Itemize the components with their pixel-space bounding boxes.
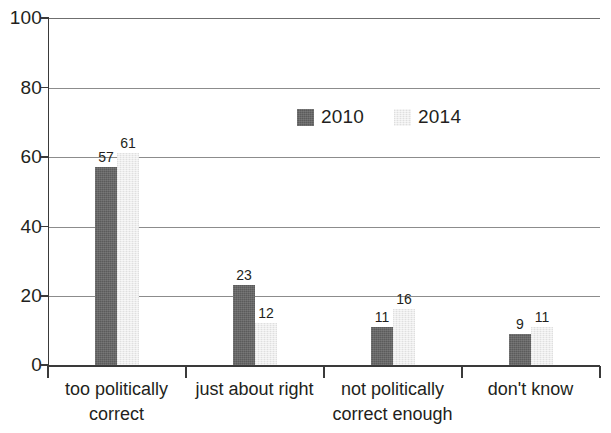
bar-group-too-politically-correct: 57 61 [48, 18, 185, 365]
bar-2010[interactable] [371, 327, 393, 365]
legend-item-2010[interactable]: 2010 [297, 106, 364, 128]
bar-value-2010: 23 [224, 267, 264, 283]
label-line-1: too politically [48, 377, 185, 402]
bar-value-2014: 11 [522, 309, 562, 325]
y-axis-label-40: 40 [20, 216, 42, 238]
bar-2014[interactable] [393, 309, 415, 365]
x-axis-category-labels: too politically correct just about right… [48, 377, 600, 433]
light-gray-swatch-icon [394, 109, 411, 126]
label-line-1: not politically [324, 377, 461, 402]
label-line-2: correct enough [324, 402, 461, 427]
x-axis-label-just-about-right: just about right [186, 377, 323, 402]
x-axis-label-too-politically-correct: too politically correct [48, 377, 185, 427]
bar-value-2014: 61 [108, 135, 148, 151]
y-axis-label-80: 80 [20, 77, 42, 99]
bar-2010[interactable] [509, 334, 531, 365]
bar-chart: 100 80 60 40 20 0 57 61 [0, 0, 611, 433]
legend: 2010 2014 [297, 106, 461, 128]
bar-group-just-about-right: 23 12 [186, 18, 323, 365]
label-line-1: don't know [462, 377, 599, 402]
bar-2010[interactable] [95, 167, 117, 365]
bar-2014[interactable] [531, 327, 553, 365]
y-axis-label-60: 60 [20, 146, 42, 168]
label-line-2: correct [48, 402, 185, 427]
bar-2014[interactable] [117, 153, 139, 365]
bar-2010[interactable] [233, 285, 255, 365]
dark-gray-swatch-icon [297, 109, 314, 126]
y-axis-label-20: 20 [20, 285, 42, 307]
x-axis-label-not-politically-correct-enough: not politically correct enough [324, 377, 461, 427]
legend-label-2014: 2014 [418, 106, 461, 128]
bar-group-dont-know: 9 11 [462, 18, 599, 365]
bar-value-2014: 16 [384, 291, 424, 307]
bar-group-not-politically-correct-enough: 11 16 [324, 18, 461, 365]
bar-2014[interactable] [255, 323, 277, 365]
legend-label-2010: 2010 [321, 106, 364, 128]
plot-area: 57 61 23 12 11 16 9 11 [48, 18, 600, 365]
label-line-1: just about right [186, 377, 323, 402]
y-axis-label-100: 100 [10, 7, 42, 29]
x-axis-label-dont-know: don't know [462, 377, 599, 402]
legend-item-2014[interactable]: 2014 [394, 106, 461, 128]
